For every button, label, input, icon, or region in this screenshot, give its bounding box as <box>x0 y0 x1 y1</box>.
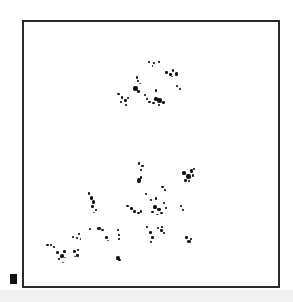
speck <box>138 162 140 165</box>
speck <box>192 174 194 177</box>
speck <box>117 93 120 95</box>
speck <box>105 236 108 239</box>
speck <box>176 85 178 87</box>
speck <box>91 205 94 208</box>
speck <box>76 237 78 239</box>
speck <box>88 192 90 195</box>
speck <box>157 227 159 229</box>
speck <box>182 209 184 211</box>
speck <box>175 72 178 76</box>
speck <box>172 69 174 72</box>
speck <box>157 208 161 211</box>
speck <box>118 259 121 261</box>
bottom-band <box>0 290 293 302</box>
speck <box>101 229 104 231</box>
speck <box>76 254 79 257</box>
speck <box>140 176 142 179</box>
speck <box>190 238 192 240</box>
speck <box>144 94 146 96</box>
speck <box>145 193 147 195</box>
speck <box>155 197 157 200</box>
speck <box>188 180 190 182</box>
speck <box>148 61 150 63</box>
image-frame <box>22 20 280 288</box>
speck <box>160 212 163 214</box>
speck <box>73 250 76 253</box>
speck <box>146 98 148 100</box>
speck <box>118 234 120 236</box>
speck <box>80 238 81 240</box>
speck <box>184 179 187 182</box>
speck <box>155 89 157 92</box>
speck <box>149 231 152 234</box>
speck <box>139 83 141 84</box>
speck <box>92 200 95 204</box>
speck <box>185 236 188 239</box>
speck <box>46 244 49 246</box>
speck <box>137 90 140 93</box>
speck <box>180 205 182 207</box>
speck <box>127 97 129 99</box>
speck <box>152 102 155 104</box>
speck <box>107 240 109 241</box>
speck <box>95 209 97 211</box>
speck <box>150 241 152 243</box>
speck <box>165 207 167 209</box>
speck <box>72 236 74 238</box>
speck <box>125 104 127 106</box>
speck <box>162 101 165 104</box>
speck <box>133 210 136 213</box>
speck <box>74 256 76 257</box>
speck <box>164 189 166 191</box>
speck <box>141 165 144 167</box>
speck <box>58 258 60 260</box>
speck <box>77 249 79 251</box>
speck <box>193 168 195 170</box>
speck <box>78 233 80 235</box>
speck <box>50 244 52 246</box>
speck <box>53 246 55 248</box>
speck <box>187 240 191 243</box>
speck <box>120 101 122 103</box>
speck <box>140 169 142 171</box>
speck <box>158 104 160 106</box>
speck <box>151 211 154 213</box>
speck <box>161 186 164 188</box>
speck <box>136 76 138 79</box>
speck <box>63 250 66 253</box>
speck <box>118 238 120 240</box>
speck <box>171 76 173 77</box>
speck <box>158 61 160 63</box>
speck <box>151 236 154 239</box>
speck <box>124 99 127 102</box>
speck <box>153 62 155 64</box>
speck <box>126 205 129 207</box>
speck <box>163 232 165 234</box>
speck <box>140 210 142 213</box>
speck <box>121 96 123 99</box>
speck <box>146 226 148 228</box>
speck <box>89 228 91 230</box>
speck <box>64 257 66 258</box>
speck <box>117 229 119 231</box>
scale-marker <box>10 274 17 284</box>
speck <box>150 199 152 201</box>
speck <box>148 101 151 103</box>
speck <box>165 71 168 74</box>
speck <box>186 174 191 179</box>
speck <box>179 88 181 90</box>
speck <box>137 80 139 82</box>
speck <box>163 202 165 204</box>
speck <box>152 65 153 67</box>
speck <box>161 226 163 228</box>
image-canvas <box>0 0 293 302</box>
speck <box>93 212 95 213</box>
speck <box>56 251 59 254</box>
